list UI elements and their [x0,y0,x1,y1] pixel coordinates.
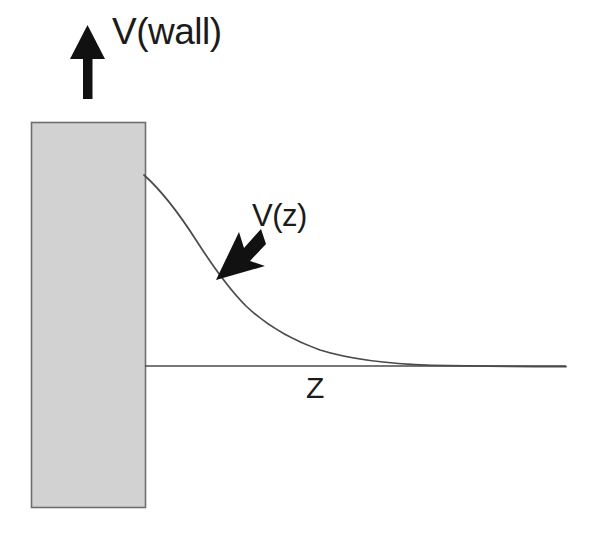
decay-potential-label: V(z) [252,200,307,231]
axis-distance-label: Z [306,373,324,403]
decay-curve [144,175,566,367]
diagram-canvas [0,0,597,539]
diagonal-down-left-arrow-icon [216,229,266,280]
wall-block [32,123,146,508]
wall-potential-diagram: V(wall) V(z) Z [0,0,597,539]
up-arrow-icon [70,25,105,99]
wall-potential-label: V(wall) [112,13,222,50]
